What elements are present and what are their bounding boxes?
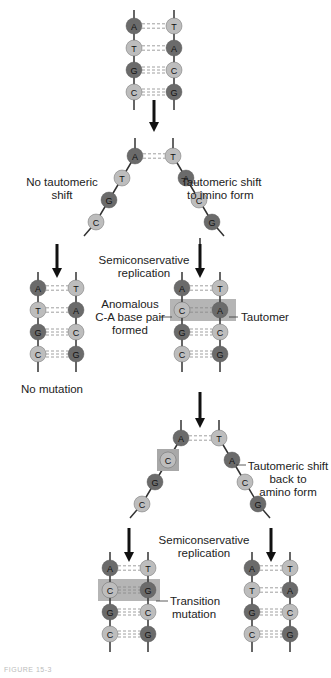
svg-text:G: G bbox=[286, 630, 293, 640]
label-line: No tautomeric bbox=[6, 176, 118, 189]
label-line: C-A base pair bbox=[90, 311, 170, 324]
svg-text:T: T bbox=[73, 284, 79, 294]
label-line: amino form bbox=[246, 486, 330, 499]
svg-text:G: G bbox=[144, 586, 151, 596]
label-semiconservative-2: Semiconservative replication bbox=[144, 534, 264, 560]
base-C: C bbox=[68, 324, 84, 340]
base-G: G bbox=[204, 214, 220, 230]
base-A: A bbox=[224, 452, 240, 468]
label-line: Tautomeric shift bbox=[246, 460, 330, 473]
svg-text:G: G bbox=[254, 500, 261, 510]
base-C: C bbox=[244, 626, 260, 642]
svg-text:C: C bbox=[131, 88, 138, 98]
svg-text:A: A bbox=[229, 456, 235, 466]
base-G: G bbox=[68, 346, 84, 362]
label-line: shift bbox=[6, 189, 118, 202]
base-G: G bbox=[126, 62, 142, 78]
base-A: A bbox=[126, 18, 142, 34]
svg-text:A: A bbox=[249, 564, 255, 574]
svg-text:T: T bbox=[170, 152, 176, 162]
svg-text:C: C bbox=[217, 328, 224, 338]
svg-text:C: C bbox=[35, 350, 42, 360]
arrow-head-icon bbox=[124, 552, 134, 562]
base-C: C bbox=[140, 604, 156, 620]
base-G: G bbox=[30, 324, 46, 340]
base-A: A bbox=[166, 40, 182, 56]
base-C: C bbox=[160, 452, 176, 468]
base-G: G bbox=[212, 346, 228, 362]
svg-text:A: A bbox=[107, 564, 113, 574]
base-T: T bbox=[165, 148, 181, 164]
base-A: A bbox=[173, 430, 189, 446]
label-line: replication bbox=[84, 267, 204, 280]
base-A: A bbox=[244, 560, 260, 576]
base-G: G bbox=[140, 626, 156, 642]
svg-text:T: T bbox=[216, 434, 222, 444]
base-C: C bbox=[88, 214, 104, 230]
svg-text:A: A bbox=[132, 152, 138, 162]
base-G: G bbox=[244, 604, 260, 620]
svg-text:T: T bbox=[171, 22, 177, 32]
label-line: Semiconservative bbox=[84, 254, 204, 267]
base-G: G bbox=[102, 604, 118, 620]
base-G: G bbox=[166, 84, 182, 100]
svg-text:C: C bbox=[73, 328, 80, 338]
svg-text:T: T bbox=[131, 44, 137, 54]
base-T: T bbox=[282, 560, 298, 576]
svg-text:G: G bbox=[106, 608, 113, 618]
svg-text:G: G bbox=[144, 630, 151, 640]
arrow-head-icon bbox=[195, 418, 205, 428]
svg-text:C: C bbox=[165, 456, 172, 466]
base-C: C bbox=[174, 302, 190, 318]
svg-text:C: C bbox=[171, 66, 178, 76]
base-C: C bbox=[102, 626, 118, 642]
svg-text:G: G bbox=[248, 608, 255, 618]
svg-text:C: C bbox=[179, 306, 186, 316]
base-C: C bbox=[166, 62, 182, 78]
svg-text:A: A bbox=[35, 284, 41, 294]
label-semiconservative-1: Semiconservative replication bbox=[84, 254, 204, 280]
svg-text:A: A bbox=[287, 586, 293, 596]
svg-text:G: G bbox=[130, 66, 137, 76]
svg-text:A: A bbox=[217, 306, 223, 316]
base-T: T bbox=[212, 280, 228, 296]
base-C: C bbox=[102, 582, 118, 598]
label-no-tautomeric-shift: No tautomeric shift bbox=[6, 176, 118, 202]
svg-text:T: T bbox=[217, 284, 223, 294]
label-line: Semiconservative bbox=[144, 534, 264, 547]
svg-text:A: A bbox=[73, 306, 79, 316]
base-T: T bbox=[140, 560, 156, 576]
base-C: C bbox=[174, 346, 190, 362]
svg-text:G: G bbox=[34, 328, 41, 338]
svg-text:A: A bbox=[171, 44, 177, 54]
label-anomalous-pair: Anomalous C-A base pair formed bbox=[90, 298, 170, 337]
base-C: C bbox=[134, 496, 150, 512]
svg-text:T: T bbox=[119, 174, 125, 184]
svg-text:A: A bbox=[178, 434, 184, 444]
base-C: C bbox=[30, 346, 46, 362]
base-T: T bbox=[30, 302, 46, 318]
svg-text:C: C bbox=[107, 586, 114, 596]
svg-text:G: G bbox=[170, 88, 177, 98]
base-A: A bbox=[30, 280, 46, 296]
svg-text:A: A bbox=[131, 22, 137, 32]
base-G: G bbox=[147, 474, 163, 490]
arrow-head-icon bbox=[149, 122, 159, 132]
base-C: C bbox=[282, 604, 298, 620]
base-G: G bbox=[140, 582, 156, 598]
base-G: G bbox=[282, 626, 298, 642]
svg-text:C: C bbox=[107, 630, 114, 640]
tautomeric-shift-diagram: ATTAGCCGATGCTACGATTAGCCGATCAGCCGACGCTACG… bbox=[0, 0, 331, 678]
label-line: mutation bbox=[170, 608, 220, 621]
label-shift-to-imino: Tautomeric shift to imino form bbox=[181, 176, 262, 202]
base-T: T bbox=[244, 582, 260, 598]
label-line: to imino form bbox=[181, 189, 262, 202]
base-A: A bbox=[102, 560, 118, 576]
label-line: formed bbox=[90, 324, 170, 337]
label-line: replication bbox=[144, 547, 264, 560]
svg-text:C: C bbox=[249, 630, 256, 640]
svg-text:G: G bbox=[72, 350, 79, 360]
svg-text:C: C bbox=[145, 608, 152, 618]
base-T: T bbox=[211, 430, 227, 446]
base-T: T bbox=[166, 18, 182, 34]
